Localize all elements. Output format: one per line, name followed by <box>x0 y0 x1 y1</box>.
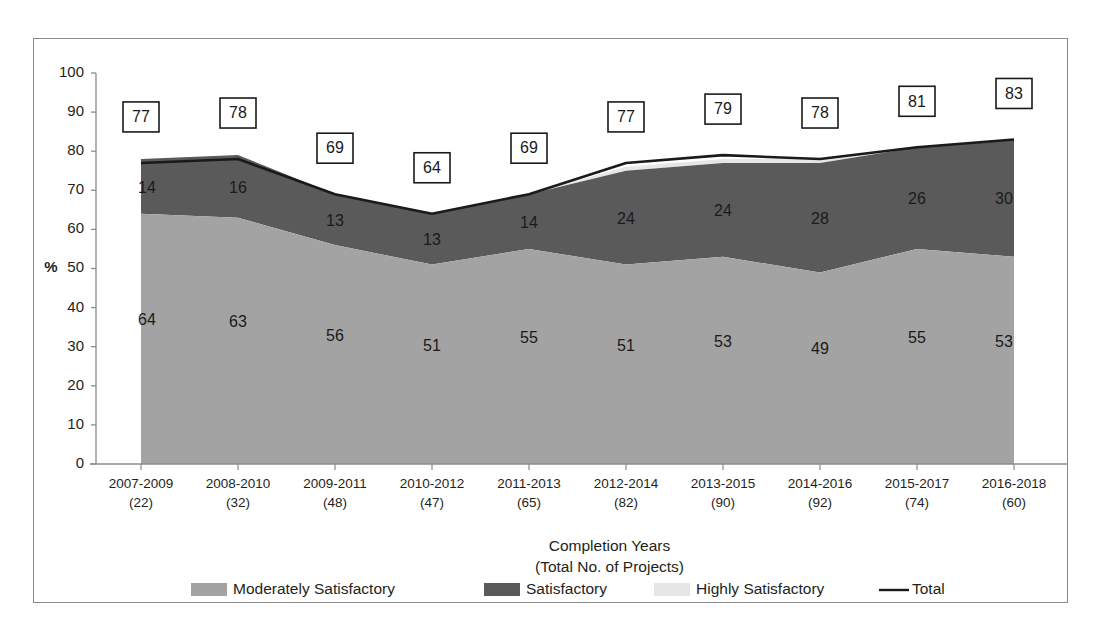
series-data-label: 63 <box>229 313 247 330</box>
y-axis-title: % <box>44 258 57 275</box>
legend-label: Satisfactory <box>526 580 607 597</box>
x-category-sublabel: (90) <box>711 495 735 510</box>
x-axis-title: Completion Years <box>549 537 671 554</box>
total-data-label: 77 <box>617 108 635 125</box>
x-category-label: 2013-2015 <box>691 476 756 491</box>
area-series-group <box>141 139 1014 464</box>
y-tick-label: 60 <box>67 219 84 236</box>
x-axis-title-group: Completion Years(Total No. of Projects) <box>535 537 684 575</box>
x-category-sublabel: (65) <box>517 495 541 510</box>
total-data-label: 77 <box>132 108 150 125</box>
series-data-label: 56 <box>326 327 344 344</box>
x-category-label: 2009-2011 <box>303 476 367 491</box>
x-category-sublabel: (82) <box>614 495 638 510</box>
y-tick-labels-group: 0102030405060708090100 <box>59 63 84 471</box>
series-data-label: 26 <box>908 190 926 207</box>
legend-swatch <box>191 583 227 596</box>
y-tick-label: 10 <box>67 415 84 432</box>
series-data-label: 51 <box>617 337 635 354</box>
x-category-sublabel: (47) <box>420 495 444 510</box>
series-data-label: 49 <box>811 340 829 357</box>
y-tick-label: 50 <box>67 258 84 275</box>
legend-label: Moderately Satisfactory <box>233 580 395 597</box>
total-data-label: 83 <box>1005 85 1023 102</box>
x-category-label: 2012-2014 <box>594 476 659 491</box>
total-data-label: 78 <box>811 104 829 121</box>
series-data-label: 13 <box>326 212 344 229</box>
x-category-sublabel: (60) <box>1002 495 1026 510</box>
legend-swatch <box>654 583 690 596</box>
y-tick-label: 40 <box>67 298 84 315</box>
total-data-label: 69 <box>326 139 344 156</box>
y-tick-label: 30 <box>67 337 84 354</box>
y-tick-label: 80 <box>67 141 84 158</box>
x-axis-title-line2: (Total No. of Projects) <box>535 558 684 575</box>
x-category-label: 2008-2010 <box>206 476 271 491</box>
series-data-label: 64 <box>138 311 156 328</box>
x-category-sublabel: (92) <box>808 495 832 510</box>
series-data-label: 53 <box>995 333 1013 350</box>
series-data-label: 14 <box>138 179 156 196</box>
total-data-label: 79 <box>714 100 732 117</box>
series-data-label: 14 <box>520 214 538 231</box>
series-data-label: 51 <box>423 337 441 354</box>
chart-frame: 0102030405060708090100 % 2007-2009(22)20… <box>33 38 1068 603</box>
x-category-sublabel: (74) <box>905 495 929 510</box>
series-data-label: 24 <box>617 210 635 227</box>
total-data-label: 81 <box>908 93 926 110</box>
x-category-label: 2014-2016 <box>788 476 853 491</box>
legend-group: Moderately SatisfactorySatisfactoryHighl… <box>191 580 945 597</box>
x-category-label: 2007-2009 <box>109 476 174 491</box>
series-data-label: 28 <box>811 210 829 227</box>
y-tick-label: 90 <box>67 102 84 119</box>
y-tick-label: 20 <box>67 376 84 393</box>
legend-label: Highly Satisfactory <box>696 580 825 597</box>
y-tick-label: 100 <box>59 63 84 80</box>
legend-label: Total <box>912 580 945 597</box>
x-category-sublabel: (32) <box>226 495 250 510</box>
y-tick-label: 70 <box>67 180 84 197</box>
y-axis-title-group: % <box>44 258 57 275</box>
series-data-label: 13 <box>423 231 441 248</box>
series-data-label: 53 <box>714 333 732 350</box>
x-category-sublabel: (48) <box>323 495 347 510</box>
total-data-label: 69 <box>520 139 538 156</box>
x-category-labels-group: 2007-2009(22)2008-2010(32)2009-2011(48)2… <box>109 476 1047 510</box>
total-data-label: 64 <box>423 159 441 176</box>
area-chart: 0102030405060708090100 % 2007-2009(22)20… <box>34 39 1069 604</box>
series-data-label: 55 <box>908 329 926 346</box>
x-category-label: 2011-2013 <box>497 476 561 491</box>
x-category-label: 2016-2018 <box>982 476 1047 491</box>
legend-swatch <box>484 583 520 596</box>
total-data-label: 78 <box>229 104 247 121</box>
y-tick-label: 0 <box>76 454 84 471</box>
series-data-label: 16 <box>229 179 247 196</box>
x-category-label: 2015-2017 <box>885 476 950 491</box>
series-data-label: 24 <box>714 202 732 219</box>
series-data-label: 55 <box>520 329 538 346</box>
series-data-label: 30 <box>995 190 1013 207</box>
x-category-label: 2010-2012 <box>400 476 465 491</box>
x-category-sublabel: (22) <box>129 495 153 510</box>
